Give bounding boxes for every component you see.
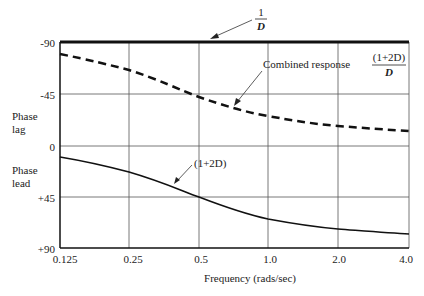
annotation-combined-response: Combined response (1+2D) D: [234, 51, 406, 106]
series-combined-response: [60, 54, 409, 131]
svg-text:lag: lag: [12, 123, 26, 135]
svg-text:Combined response: Combined response: [263, 58, 350, 70]
y-axis-labels: Phase lag Phase lead: [12, 110, 38, 189]
grid: [60, 42, 409, 248]
svg-text:-45: -45: [40, 89, 55, 101]
x-axis-label: Frequency (rads/sec): [204, 272, 296, 285]
svg-text:4.0: 4.0: [399, 253, 413, 265]
axes: [60, 42, 409, 248]
svg-text:Phase: Phase: [12, 110, 38, 122]
svg-text:1: 1: [258, 6, 264, 18]
annotation-1-over-d: 1 D: [210, 6, 267, 39]
svg-text:-90: -90: [40, 37, 55, 49]
y-tick-labels: -90 -45 0 +45 +90: [38, 37, 56, 255]
svg-text:0.5: 0.5: [194, 253, 208, 265]
svg-text:1.0: 1.0: [263, 253, 277, 265]
svg-text:+45: +45: [38, 192, 56, 204]
svg-text:2.0: 2.0: [332, 253, 346, 265]
svg-text:D: D: [384, 66, 393, 78]
svg-text:0.125: 0.125: [53, 253, 78, 265]
svg-text:Phase: Phase: [12, 164, 38, 176]
annotation-1-plus-2d: (1+2D): [174, 157, 227, 184]
svg-text:(1+2D): (1+2D): [194, 157, 227, 170]
svg-text:0.25: 0.25: [123, 253, 143, 265]
svg-text:D: D: [256, 20, 265, 32]
phase-chart: -90 -45 0 +45 +90 Phase lag Phase lead 0…: [0, 0, 424, 296]
series-1-plus-2d: [60, 157, 409, 234]
svg-text:(1+2D): (1+2D): [373, 51, 406, 64]
x-tick-labels: 0.125 0.25 0.5 1.0 2.0 4.0: [53, 253, 414, 265]
svg-text:lead: lead: [12, 177, 31, 189]
svg-text:0: 0: [50, 141, 56, 153]
